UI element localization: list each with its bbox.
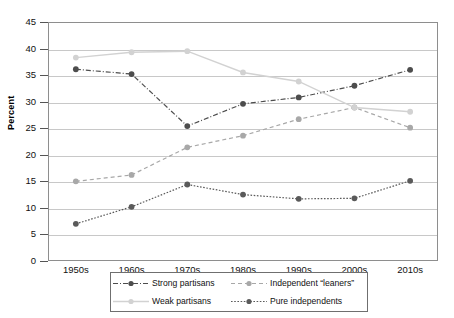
data-point-pure-independents-1980s: [240, 192, 246, 198]
y-axis-tick: [40, 102, 48, 103]
data-point-weak-partisans-2010s: [407, 109, 413, 115]
legend-item-independent-leaners: Independent “leaners”: [231, 278, 371, 289]
y-axis-tick-label: 0: [0, 255, 36, 266]
data-point-strong-partisans-1980s: [240, 101, 246, 107]
y-axis-tick: [40, 234, 48, 235]
data-point-strong-partisans-1990s: [296, 95, 302, 101]
legend-key-weak-partisans: [113, 296, 149, 307]
data-point-weak-partisans-1960s: [129, 49, 135, 55]
legend-item-pure-independents: Pure independents: [231, 296, 371, 307]
line-chart: Percent 051015202530354045 1950s1960s197…: [0, 0, 454, 318]
data-point-independent-leaners-1990s: [296, 116, 302, 122]
series-layer: [48, 22, 438, 261]
y-axis-tick-label: 25: [0, 122, 36, 133]
data-point-strong-partisans-1970s: [184, 123, 190, 129]
data-point-pure-independents-1970s: [184, 182, 190, 188]
y-axis-tick: [40, 128, 48, 129]
y-axis-tick-label: 10: [0, 202, 36, 213]
data-point-independent-leaners-1960s: [129, 172, 135, 178]
series-independent-leaners: [73, 105, 413, 185]
y-axis-tick-label: 30: [0, 96, 36, 107]
data-point-pure-independents-1960s: [129, 204, 135, 210]
y-axis-tick: [40, 261, 48, 262]
data-point-independent-leaners-2010s: [407, 125, 413, 131]
series-strong-partisans: [73, 66, 413, 129]
series-line-pure-independents: [76, 181, 410, 224]
legend-label-pure-independents: Pure independents: [270, 296, 342, 306]
data-point-weak-partisans-1970s: [184, 48, 190, 54]
series-line-independent-leaners: [76, 108, 410, 182]
y-axis-tick: [40, 155, 48, 156]
data-point-pure-independents-1950s: [73, 221, 79, 227]
data-point-strong-partisans-2010s: [407, 67, 413, 73]
series-line-strong-partisans: [76, 69, 410, 126]
data-point-pure-independents-2000s: [352, 195, 358, 201]
legend-label-strong-partisans: Strong partisans: [152, 278, 215, 288]
data-point-independent-leaners-1980s: [240, 133, 246, 139]
x-axis-tick-label: 2010s: [381, 264, 439, 275]
y-axis-tick-label: 35: [0, 69, 36, 80]
x-axis-tick-label: 1950s: [47, 264, 105, 275]
data-point-weak-partisans-1980s: [240, 70, 246, 76]
y-axis-tick: [40, 49, 48, 50]
y-axis-tick-label: 15: [0, 175, 36, 186]
series-pure-independents: [73, 178, 413, 227]
data-point-strong-partisans-2000s: [352, 83, 358, 89]
data-point-pure-independents-2010s: [407, 178, 413, 184]
legend-key-independent-leaners: [231, 278, 267, 289]
data-point-strong-partisans-1950s: [73, 66, 79, 72]
data-point-strong-partisans-1960s: [129, 71, 135, 77]
y-axis-tick: [40, 208, 48, 209]
y-axis-tick: [40, 22, 48, 23]
y-axis-tick-label: 45: [0, 16, 36, 27]
legend-key-strong-partisans: [113, 278, 149, 289]
data-point-weak-partisans-2000s: [352, 105, 358, 111]
y-axis-tick: [40, 181, 48, 182]
legend-key-pure-independents: [231, 296, 267, 307]
y-axis-tick: [40, 75, 48, 76]
legend-label-weak-partisans: Weak partisans: [152, 296, 211, 306]
data-point-independent-leaners-1970s: [184, 144, 190, 150]
y-axis-tick-label: 40: [0, 43, 36, 54]
legend-item-weak-partisans: Weak partisans: [113, 296, 231, 307]
data-point-independent-leaners-1950s: [73, 178, 79, 184]
legend-label-independent-leaners: Independent “leaners”: [270, 278, 354, 288]
y-axis-tick-label: 5: [0, 228, 36, 239]
data-point-pure-independents-1990s: [296, 196, 302, 202]
data-point-weak-partisans-1990s: [296, 79, 302, 85]
legend-item-strong-partisans: Strong partisans: [113, 278, 231, 289]
chart-legend: Strong partisans Independent “leaners” W…: [110, 272, 368, 312]
y-axis-tick-label: 20: [0, 149, 36, 160]
data-point-weak-partisans-1950s: [73, 55, 79, 61]
